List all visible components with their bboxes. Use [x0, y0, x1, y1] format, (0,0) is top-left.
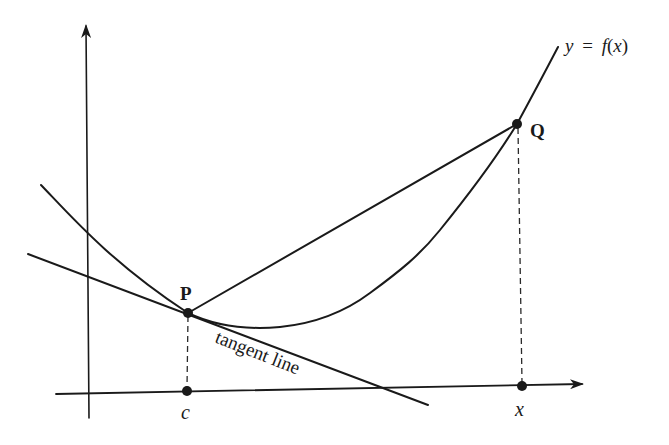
dashed-drop-q	[518, 128, 522, 383]
point-q-dot	[512, 119, 522, 129]
curve-label: y = f(x)	[563, 35, 628, 57]
curve-label-y: y	[563, 35, 574, 56]
secant-line-pq	[188, 124, 517, 313]
point-x-dot	[517, 381, 527, 391]
x-label: x	[514, 398, 524, 420]
point-q-label: Q	[530, 120, 545, 141]
c-label: c	[181, 401, 190, 423]
x-axis	[56, 384, 582, 394]
curve-label-close: )	[622, 35, 628, 57]
curve-label-eq: =	[582, 35, 593, 56]
dashed-drop-p	[187, 316, 188, 388]
function-curve	[41, 47, 558, 328]
point-p-dot	[183, 308, 193, 318]
secant-tangent-diagram: P Q c x y = f(x) tangent line	[0, 0, 669, 445]
point-p-label: P	[180, 283, 192, 304]
point-c-dot	[182, 386, 192, 396]
y-axis	[86, 26, 89, 418]
